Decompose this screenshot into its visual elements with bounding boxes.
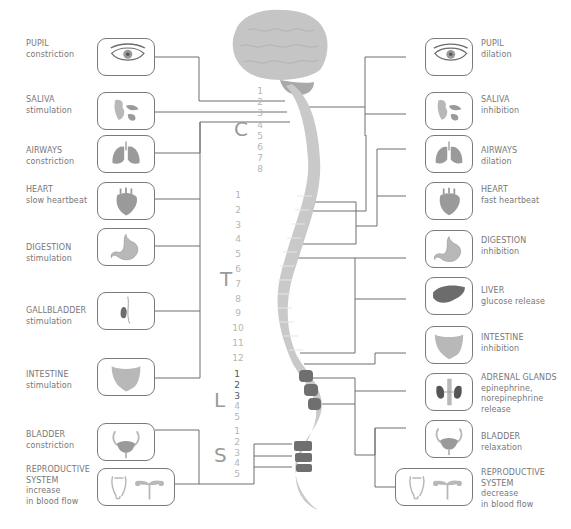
- effect-text: inhibition: [481, 106, 519, 117]
- right-intestine-label: INTESTINEinhibition: [481, 333, 524, 354]
- effect-text: in blood flow: [481, 500, 545, 511]
- effect-text: norepinephrine: [481, 394, 557, 405]
- brain-icon: [233, 10, 328, 95]
- right-heart-label: HEARTfast heartbeat: [481, 185, 539, 206]
- eye-icon: [426, 39, 472, 75]
- vertebra-s3: 3: [230, 448, 244, 458]
- lungs-icon: [98, 136, 154, 172]
- effect-text: relaxation: [481, 443, 522, 454]
- heart-icon: [426, 183, 472, 219]
- intestine-icon: [98, 359, 154, 395]
- left-heart-icon-box: [97, 182, 155, 220]
- left-airways-label: AIRWAYSconstriction: [26, 146, 74, 167]
- right-bladder-label: BLADDERrelaxation: [481, 432, 522, 453]
- vertebra-t9: 9: [231, 308, 245, 318]
- vertebra-t7: 7: [231, 279, 245, 289]
- effect-text: in blood flow: [26, 497, 90, 508]
- right-digestion-label: DIGESTIONinhibition: [481, 236, 526, 257]
- left-digestion-icon-box: [97, 228, 155, 266]
- kidneys-adrenal-icon: [426, 374, 472, 410]
- effect-text: SYSTEM: [26, 476, 90, 487]
- organ-name: REPRODUCTIVE: [26, 465, 90, 476]
- vertebra-c7: 7: [253, 153, 267, 163]
- right-liver-icon-box: [425, 277, 473, 315]
- liver-icon: [426, 278, 472, 314]
- vertebra-s2: 2: [230, 437, 244, 447]
- vertebra-t3: 3: [231, 220, 245, 230]
- left-digestion-label: DIGESTIONstimulation: [26, 243, 72, 264]
- vertebra-s5: 5: [230, 469, 244, 479]
- bladder-icon: [426, 421, 472, 457]
- organ-name: BLADDER: [481, 432, 522, 443]
- right-saliva-icon-box: [425, 92, 473, 130]
- heart-icon: [98, 183, 154, 219]
- bladder-icon: [98, 424, 154, 460]
- right-adrenal-label: ADRENAL GLANDSepinephrine,norepinephrine…: [481, 373, 557, 415]
- right-pupil-label: PUPILdilation: [481, 39, 512, 60]
- vertebra-t6: 6: [231, 264, 245, 274]
- organ-name: AIRWAYS: [26, 146, 74, 157]
- effect-text: constriction: [26, 50, 74, 61]
- organ-name: INTESTINE: [26, 370, 72, 381]
- right-airways-label: AIRWAYSdilation: [481, 146, 517, 167]
- vertebra-s4: 4: [230, 458, 244, 468]
- organ-name: BLADDER: [26, 430, 74, 441]
- vertebra-c5: 5: [253, 131, 267, 141]
- left-airways-icon-box: [97, 135, 155, 173]
- effect-text: slow heartbeat: [26, 196, 87, 207]
- right-intestine-icon-box: [425, 326, 473, 364]
- vertebra-l3: 3: [230, 391, 244, 401]
- left-gallbladder-icon-box: [97, 292, 155, 330]
- vertebra-l4: 4: [230, 401, 244, 411]
- reproductive-organs-icon: [98, 469, 174, 505]
- right-heart-icon-box: [425, 182, 473, 220]
- right-reproductive-icon-box: [395, 468, 473, 506]
- effect-text: inhibition: [481, 247, 526, 258]
- left-reproductive-label: REPRODUCTIVESYSTEMincreasein blood flow: [26, 465, 90, 507]
- organ-name: HEART: [481, 185, 539, 196]
- organ-name: DIGESTION: [481, 236, 526, 247]
- effect-text: stimulation: [26, 317, 86, 328]
- vertebra-c4: 4: [253, 120, 267, 130]
- organ-name: GALLBLADDER: [26, 306, 86, 317]
- right-liver-label: LIVERglucose release: [481, 286, 545, 307]
- organ-name: SALIVA: [26, 95, 72, 106]
- effect-text: constriction: [26, 441, 74, 452]
- effect-text: SYSTEM: [481, 479, 545, 490]
- stomach-icon: [426, 231, 472, 267]
- effect-text: stimulation: [26, 381, 72, 392]
- organ-name: INTESTINE: [481, 333, 524, 344]
- right-pupil-icon-box: [425, 38, 473, 76]
- right-saliva-label: SALIVAinhibition: [481, 95, 519, 116]
- left-heart-label: HEARTslow heartbeat: [26, 185, 87, 206]
- vertebra-l2: 2: [230, 380, 244, 390]
- effect-text: decrease: [481, 489, 545, 500]
- organ-name: DIGESTION: [26, 243, 72, 254]
- stomach-icon: [98, 229, 154, 265]
- right-adrenal-icon-box: [425, 373, 473, 411]
- effect-text: dilation: [481, 157, 517, 168]
- vertebra-t8: 8: [231, 294, 245, 304]
- left-intestine-label: INTESTINEstimulation: [26, 370, 72, 391]
- effect-text: glucose release: [481, 297, 545, 308]
- right-digestion-icon-box: [425, 230, 473, 268]
- vertebra-l5: 5: [230, 412, 244, 422]
- vertebra-t1: 1: [231, 190, 245, 200]
- effect-text: stimulation: [26, 106, 72, 117]
- left-saliva-label: SALIVAstimulation: [26, 95, 72, 116]
- vertebra-c1: 1: [253, 86, 267, 96]
- left-pupil-icon-box: [97, 38, 155, 76]
- right-airways-icon-box: [425, 135, 473, 173]
- effect-text: dilation: [481, 50, 512, 61]
- vertebra-t2: 2: [231, 205, 245, 215]
- salivary-glands-icon: [98, 93, 154, 129]
- effect-text: stimulation: [26, 254, 72, 265]
- region-s-letter: S: [214, 443, 227, 467]
- eye-icon: [98, 39, 154, 75]
- organ-name: HEART: [26, 185, 87, 196]
- salivary-glands-icon: [426, 93, 472, 129]
- vertebra-s1: 1: [230, 426, 244, 436]
- effect-text: fast heartbeat: [481, 196, 539, 207]
- vertebra-c6: 6: [253, 142, 267, 152]
- organ-name: ADRENAL GLANDS: [481, 373, 557, 384]
